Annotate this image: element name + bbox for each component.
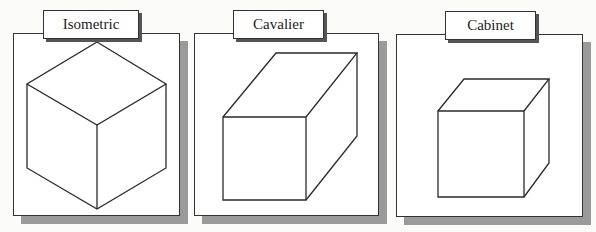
- cabinet-label-text: Cabinet: [467, 17, 514, 34]
- cabinet-label: Cabinet: [445, 11, 536, 40]
